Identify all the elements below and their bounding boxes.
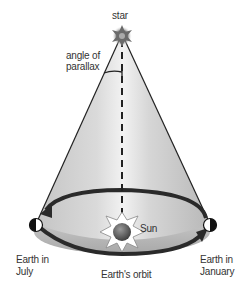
earth-january-label-line1: Earth in (200, 254, 233, 265)
earth-july-label-line2: July (16, 266, 33, 277)
angle-of-parallax-label-line1: angle of (66, 50, 100, 61)
earth-january-icon (204, 219, 217, 232)
star-icon (112, 25, 132, 47)
earth-january-label-line2: January (200, 266, 234, 277)
star-label: star (112, 10, 128, 21)
parallax-diagram: star angle of parallax Sun Earth in July… (0, 0, 242, 292)
sun-label: Sun (140, 223, 157, 234)
diagram-graphic (0, 0, 242, 292)
earth-july-label-line1: Earth in (16, 254, 49, 265)
earth-july-icon (30, 219, 43, 232)
angle-of-parallax-label-line2: parallax (66, 61, 99, 72)
earths-orbit-label: Earth's orbit (101, 269, 151, 280)
sun-icon (100, 212, 144, 252)
